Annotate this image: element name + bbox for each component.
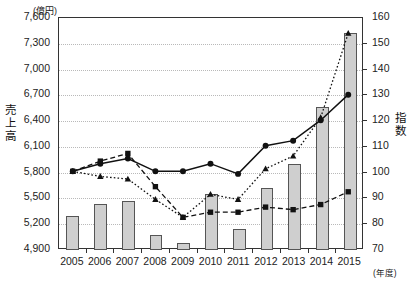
right-axis-title: 指 数 [392, 112, 408, 138]
x-axis-tick-mark [224, 249, 225, 253]
x-axis-tick-mark [308, 249, 309, 253]
marker-circle [125, 156, 131, 162]
left-axis-tick-label: 6,100 [0, 139, 50, 151]
marker-square [208, 210, 213, 215]
marker-triangle [152, 196, 158, 202]
right-axis-tick-label: 80 [372, 216, 384, 228]
marker-circle [208, 161, 214, 167]
x-axis-tick-mark [86, 249, 87, 253]
right-axis-tick-mark [363, 120, 367, 121]
right-axis-tick-label: 70 [372, 242, 384, 254]
right-axis-tick-mark [363, 94, 367, 95]
x-axis-tick-mark [141, 249, 142, 253]
left-axis-tick-label: 5,200 [0, 216, 50, 228]
marker-triangle [345, 30, 351, 36]
right-axis-tick-mark [363, 172, 367, 173]
marker-square [318, 202, 323, 207]
plot-area [58, 17, 363, 249]
marker-square [153, 184, 158, 189]
marker-circle [345, 92, 351, 98]
left-axis-tick-label: 7,600 [0, 10, 50, 22]
marker-triangle [207, 191, 213, 197]
right-axis-tick-mark [363, 223, 367, 224]
right-axis-tick-label: 120 [372, 113, 390, 125]
right-axis-tick-label: 160 [372, 10, 390, 22]
left-axis-tick-label: 5,500 [0, 190, 50, 202]
marker-circle [180, 168, 186, 174]
chart-figure: (億円) 売 上 高 指 数 (年度) 4,9005,2005,5005,800… [0, 0, 412, 282]
marker-square [290, 207, 295, 212]
x-axis-tick-mark [169, 249, 170, 253]
right-axis-tick-mark [363, 43, 367, 44]
marker-square [346, 189, 351, 194]
marker-square [263, 204, 268, 209]
left-axis-tick-label: 7,000 [0, 62, 50, 74]
marker-square [70, 169, 75, 174]
x-axis-tick-mark [197, 249, 198, 253]
marker-circle [263, 143, 269, 149]
left-axis-tick-label: 6,400 [0, 113, 50, 125]
right-axis-tick-label: 140 [372, 62, 390, 74]
line-triangle [73, 33, 348, 217]
left-axis-tick-label: 5,800 [0, 165, 50, 177]
marker-square [235, 210, 240, 215]
x-axis-tick-mark [335, 249, 336, 253]
left-axis-tick-label: 4,900 [0, 242, 50, 254]
line-series-layer [59, 18, 362, 248]
marker-square [98, 158, 103, 163]
x-axis-tick-label: 2015 [329, 255, 369, 267]
marker-square [180, 215, 185, 220]
right-axis-tick-label: 90 [372, 190, 384, 202]
right-axis-tick-mark [363, 197, 367, 198]
left-axis-tick-label: 6,700 [0, 87, 50, 99]
x-axis-tick-mark [113, 249, 114, 253]
right-axis-tick-mark [363, 146, 367, 147]
x-axis-unit-label: (年度) [373, 266, 397, 278]
x-axis-tick-mark [252, 249, 253, 253]
marker-circle [152, 168, 158, 174]
marker-circle [235, 171, 241, 177]
marker-circle [290, 138, 296, 144]
right-axis-tick-mark [363, 69, 367, 70]
right-axis-tick-label: 150 [372, 36, 390, 48]
marker-square [125, 151, 130, 156]
x-axis-tick-mark [280, 249, 281, 253]
right-axis-tick-label: 130 [372, 87, 390, 99]
left-axis-tick-label: 7,300 [0, 36, 50, 48]
right-axis-tick-label: 100 [372, 165, 390, 177]
right-axis-tick-label: 110 [372, 139, 389, 151]
